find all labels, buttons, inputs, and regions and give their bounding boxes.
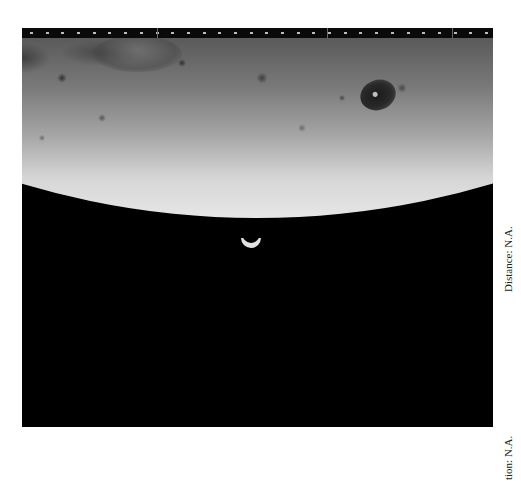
film-tick xyxy=(454,32,457,34)
film-tick xyxy=(124,32,127,34)
film-strip-border xyxy=(22,28,493,38)
earth-crescent xyxy=(241,238,261,250)
film-tick xyxy=(422,32,425,34)
film-divider xyxy=(157,28,158,38)
film-tick xyxy=(469,32,472,34)
film-tick xyxy=(171,32,174,34)
film-tick xyxy=(93,32,96,34)
film-divider xyxy=(452,28,453,38)
film-tick xyxy=(140,32,143,34)
lunar-photo xyxy=(22,28,493,427)
distance-caption: Distance: N.A. xyxy=(502,226,514,292)
film-tick xyxy=(297,32,300,34)
film-tick xyxy=(77,32,80,34)
film-tick xyxy=(250,32,253,34)
location-caption: tion: N.A. xyxy=(502,436,514,480)
film-tick xyxy=(438,32,441,34)
film-tick xyxy=(485,32,488,34)
film-tick xyxy=(265,32,268,34)
film-tick xyxy=(234,32,237,34)
film-tick xyxy=(407,32,410,34)
lunar-basin xyxy=(92,36,182,72)
film-tick xyxy=(328,32,331,34)
film-tick xyxy=(30,32,33,34)
film-tick xyxy=(108,32,111,34)
film-tick xyxy=(391,32,394,34)
film-tick xyxy=(312,32,315,34)
film-tick xyxy=(61,32,64,34)
film-tick xyxy=(281,32,284,34)
film-tick xyxy=(375,32,378,34)
film-tick xyxy=(46,32,49,34)
film-tick xyxy=(203,32,206,34)
film-tick xyxy=(187,32,190,34)
film-tick xyxy=(359,32,362,34)
film-tick xyxy=(344,32,347,34)
film-divider xyxy=(327,28,328,38)
film-tick xyxy=(218,32,221,34)
